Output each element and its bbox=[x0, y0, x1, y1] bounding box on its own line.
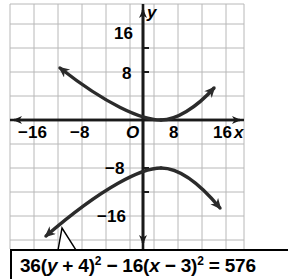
x-tick-label-16: 16 bbox=[213, 124, 232, 141]
x-axis-label: x bbox=[234, 124, 243, 141]
eq-part-c2: + 4) bbox=[57, 255, 95, 276]
eq-part-c5: = 576 bbox=[204, 255, 256, 276]
y-axis-label: y bbox=[147, 4, 156, 21]
eq-part-c3: − 16( bbox=[101, 255, 149, 276]
x-tick-label-neg8: −8 bbox=[70, 124, 89, 141]
origin-label: O bbox=[126, 124, 139, 141]
y-tick-label-8: 8 bbox=[122, 65, 131, 82]
eq-variable-y: y bbox=[47, 255, 57, 276]
y-tick-label-neg8: −8 bbox=[105, 160, 124, 177]
y-tick-label-neg16: −16 bbox=[97, 208, 126, 225]
eq-part-c4: − 3) bbox=[160, 255, 198, 276]
equation-text: 36(y + 4)2 − 16(x − 3)2 = 576 bbox=[20, 254, 256, 277]
hyperbola-figure: −16 −8 8 16 16 8 −8 −16 O y x 36(y + 4)2… bbox=[0, 0, 288, 279]
y-tick-label-16: 16 bbox=[114, 25, 133, 42]
eq-variable-x: x bbox=[149, 255, 159, 276]
x-tick-label-neg16: −16 bbox=[18, 124, 47, 141]
equation-callout-box: 36(y + 4)2 − 16(x − 3)2 = 576 bbox=[10, 249, 288, 279]
eq-part-c1: 36( bbox=[20, 255, 47, 276]
x-tick-label-8: 8 bbox=[169, 124, 178, 141]
